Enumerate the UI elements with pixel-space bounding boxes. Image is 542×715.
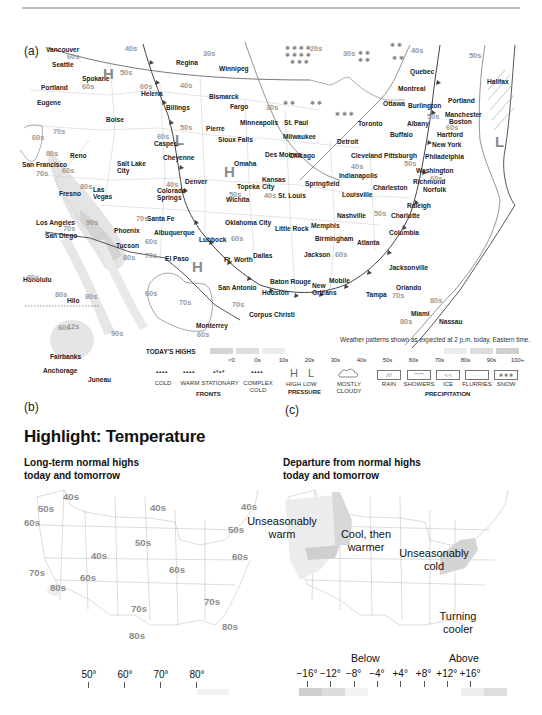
svg-text:✱ ✱: ✱ ✱ xyxy=(392,54,404,61)
pressure-group-label: PRESSURE xyxy=(288,389,321,395)
city-label: Ft. Worth xyxy=(224,257,253,264)
temp-label: 50s xyxy=(120,69,132,76)
temp-label: 60s xyxy=(62,167,74,174)
city-label: Chicago xyxy=(289,153,315,160)
city-label: Buffalo xyxy=(390,132,413,139)
city-label: Albany xyxy=(407,121,429,128)
city-label: Minneapolis xyxy=(240,120,278,127)
region-annotation: Turning cooler xyxy=(440,610,477,636)
temp-label: 40s xyxy=(264,192,276,199)
city-label: Montreal xyxy=(398,86,425,93)
temp-label: 60s xyxy=(32,134,44,141)
scale-tick xyxy=(307,681,308,687)
legend-h-symbol: H xyxy=(290,367,298,380)
scale-tick xyxy=(88,682,89,688)
city-label: Phoenix xyxy=(114,228,140,235)
low-pressure-marker: L xyxy=(175,132,184,147)
panel-label-c: (c) xyxy=(285,403,299,417)
front-symbol-icon: ▴▴▴▴ xyxy=(175,369,203,375)
city-label: Jackson xyxy=(304,252,330,259)
highs-tick-label: 20s xyxy=(298,357,321,363)
temp-label: 60s xyxy=(335,251,347,258)
scale-tick xyxy=(377,681,378,687)
highs-swatch xyxy=(496,348,519,354)
city-label: Fresno xyxy=(59,191,81,198)
todays-highs-title: TODAY'S HIGHS xyxy=(146,348,195,355)
city-label: Indianapolis xyxy=(339,173,377,180)
scale-tick xyxy=(470,681,471,687)
normal-high-label: 60s xyxy=(232,551,248,562)
mostly-cloudy-label: MOSTLY CLOUDY xyxy=(331,381,367,395)
city-label: Raleigh xyxy=(407,203,431,210)
swatch-plus16 xyxy=(484,688,507,696)
low-pressure-marker: L xyxy=(495,134,504,149)
city-label: Nashville xyxy=(337,213,366,220)
precipitation-group-label: PRECIPITATION xyxy=(425,391,470,397)
highs-swatch xyxy=(392,348,415,354)
highs-tick-label: 90s xyxy=(480,357,503,363)
swatch-minus16 xyxy=(299,688,322,696)
temp-label: 40s xyxy=(411,47,423,54)
legend-low-label: LOW xyxy=(303,381,317,388)
city-label: Juneau xyxy=(88,377,111,384)
city-label: Santa Fe xyxy=(147,216,174,223)
highs-tick-label: 0s xyxy=(246,357,269,363)
map-note: Weather patterns shown as expected at 2 … xyxy=(340,336,530,343)
departure-title: Departure from normal highs today and to… xyxy=(283,457,421,482)
temp-label: 40s xyxy=(351,163,363,170)
precip-swatch-icon: ✱ ✱ ✱ xyxy=(494,370,518,380)
temp-label: 70s xyxy=(53,128,65,135)
city-label: New York xyxy=(432,142,461,149)
temp-label: 30s xyxy=(343,50,355,57)
city-label: Boise xyxy=(106,117,124,124)
temp-label: 60s xyxy=(446,124,458,131)
temp-label: 40s xyxy=(180,82,192,89)
temp-label: 80s xyxy=(80,183,92,190)
highs-swatch xyxy=(340,348,363,354)
city-label: Salt Lake City xyxy=(117,161,146,174)
high-pressure-marker: H xyxy=(103,66,114,81)
normal-high-label: 50s xyxy=(228,524,244,535)
highs-tick-label: 10s xyxy=(272,357,295,363)
normal-high-label: 50s xyxy=(135,537,151,548)
city-label: Charlotte xyxy=(391,213,420,220)
swatch-plus12 xyxy=(461,688,484,696)
highs-tick-label: 40s xyxy=(350,357,373,363)
high-pressure-marker: H xyxy=(192,259,203,274)
normal-high-label: 40s xyxy=(150,502,166,513)
temp-label: 70s xyxy=(63,225,75,232)
panel-label-b: (b) xyxy=(24,400,39,414)
region-annotation: Unseasonably warm xyxy=(247,515,317,541)
temp-label: 50s xyxy=(427,113,439,120)
normal-high-label: 80s xyxy=(129,630,145,641)
city-label: Detroit xyxy=(337,139,358,146)
temp-label: 90s xyxy=(111,330,123,337)
city-label: Hilo xyxy=(67,298,79,305)
temp-label: 12s xyxy=(67,323,79,330)
city-label: Houston xyxy=(262,290,289,297)
front-symbol-icon: ▴▾▴▾ xyxy=(205,369,233,375)
temp-label: 40s xyxy=(125,45,137,52)
precip-swatch-icon: //// xyxy=(377,370,401,380)
highs-tick-label: 100+ xyxy=(506,357,529,363)
normal-high-label: 60s xyxy=(24,517,40,528)
city-label: Miami xyxy=(411,311,430,318)
front-symbol-icon: ▴▴▴▴ xyxy=(148,369,176,375)
city-label: Tampa xyxy=(366,292,387,299)
svg-text:✱ ✱ ✱ ✱: ✱ ✱ ✱ ✱ xyxy=(285,44,311,51)
highs-swatch xyxy=(444,348,467,354)
temp-label: 40s xyxy=(166,181,178,188)
highs-swatch xyxy=(288,348,311,354)
city-label: Eugene xyxy=(37,100,61,107)
temp-label: 60s xyxy=(157,133,169,140)
temp-label: 60s xyxy=(145,238,157,245)
city-label: Milwaukee xyxy=(283,134,316,141)
scale-b-label: 50° xyxy=(74,669,104,680)
city-label: Portland xyxy=(448,98,475,105)
city-label: Bismarck xyxy=(209,94,239,101)
svg-text:✱ ✱: ✱ ✱ xyxy=(358,49,370,56)
city-label: Las Vegas xyxy=(93,187,112,200)
scale-tick xyxy=(400,681,401,687)
city-label: Omaha xyxy=(234,161,256,168)
city-label: Birmingham xyxy=(315,236,353,243)
